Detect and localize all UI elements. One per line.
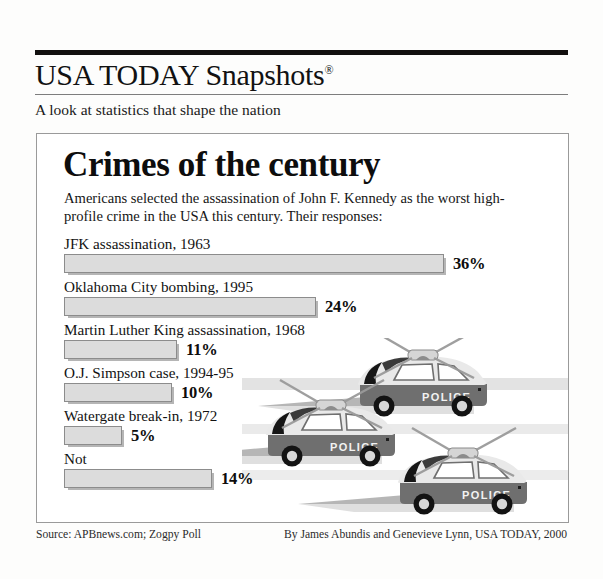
source-credit: Source: APBnews.com; Zogpy Poll xyxy=(36,527,201,542)
bar-fill xyxy=(64,340,177,359)
byline-credit: By James Abundis and Genevieve Lynn, USA… xyxy=(284,527,569,542)
bar-row: Not 14% xyxy=(64,449,544,489)
bar-row: Oklahoma City bombing, 1995 24% xyxy=(64,277,544,317)
bar-value: 10% xyxy=(181,383,213,403)
bar-line: 24% xyxy=(64,296,544,317)
bar-chart: JFK assassination, 1963 36% Oklahoma Cit… xyxy=(64,234,544,492)
bar-value: 14% xyxy=(221,469,253,489)
bar-row: Watergate break-in, 1972 5% xyxy=(64,406,544,446)
bar-track xyxy=(64,469,212,488)
bar-track xyxy=(64,297,316,316)
bar-line: 11% xyxy=(64,339,544,360)
bar-value: 24% xyxy=(325,297,357,317)
bar-row: Martin Luther King assassination, 1968 1… xyxy=(64,320,544,360)
registered-trademark-icon: ® xyxy=(324,63,333,77)
bar-line: 14% xyxy=(64,468,544,489)
bar-track xyxy=(64,426,122,445)
bar-line: 10% xyxy=(64,382,544,403)
bar-row: O.J. Simpson case, 1994-95 10% xyxy=(64,363,544,403)
bar-fill xyxy=(64,426,122,445)
bar-fill xyxy=(64,254,444,273)
brand-title-text: USA TODAY Snapshots xyxy=(35,58,324,91)
bar-value: 11% xyxy=(186,340,218,360)
bar-track xyxy=(64,254,444,273)
bar-value: 36% xyxy=(453,254,485,274)
bar-label: O.J. Simpson case, 1994-95 xyxy=(64,363,544,382)
bar-fill xyxy=(64,297,316,316)
bar-fill xyxy=(64,383,172,402)
brand-title: USA TODAY Snapshots® xyxy=(35,55,568,93)
masthead: USA TODAY Snapshots® A look at statistic… xyxy=(35,50,568,121)
footer: Source: APBnews.com; Zogpy Poll By James… xyxy=(36,527,569,542)
page-title: Crimes of the century xyxy=(63,144,380,186)
snapshot-page: USA TODAY Snapshots® A look at statistic… xyxy=(0,0,603,579)
masthead-tagline: A look at statistics that shape the nati… xyxy=(35,95,568,121)
chart-subtitle: Americans selected the assassination of … xyxy=(64,190,539,225)
bar-line: 5% xyxy=(64,425,544,446)
bar-label: Martin Luther King assassination, 1968 xyxy=(64,320,544,339)
bar-row: JFK assassination, 1963 36% xyxy=(64,234,544,274)
bar-track xyxy=(64,383,172,402)
chart-panel: POLICE xyxy=(36,133,569,523)
bar-track xyxy=(64,340,177,359)
bar-label: Not xyxy=(64,449,544,468)
bar-label: JFK assassination, 1963 xyxy=(64,234,544,253)
bar-label: Oklahoma City bombing, 1995 xyxy=(64,277,544,296)
bar-fill xyxy=(64,469,212,488)
bar-value: 5% xyxy=(131,426,155,446)
bar-label: Watergate break-in, 1972 xyxy=(64,406,544,425)
bar-line: 36% xyxy=(64,253,544,274)
